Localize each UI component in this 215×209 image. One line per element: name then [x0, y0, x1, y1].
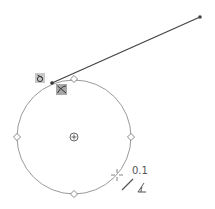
- tangent-relation-icon: [56, 84, 67, 95]
- quadrant-point-left[interactable]: [13, 133, 20, 140]
- line-tool-icon: [122, 179, 133, 190]
- coincident-relation-icon: [35, 73, 45, 83]
- quadrant-point-bottom[interactable]: [70, 190, 77, 197]
- cursor-dimension-label: 0.1: [132, 165, 148, 176]
- line-startpoint[interactable]: [50, 81, 54, 85]
- quadrant-point-top[interactable]: [70, 75, 77, 82]
- line-endpoint[interactable]: [198, 15, 202, 19]
- sketch-canvas[interactable]: [0, 0, 215, 209]
- circle-center-icon[interactable]: [70, 133, 78, 141]
- sketch-line[interactable]: [52, 17, 200, 83]
- angle-icon: [138, 183, 146, 192]
- quadrant-point-right[interactable]: [127, 133, 134, 140]
